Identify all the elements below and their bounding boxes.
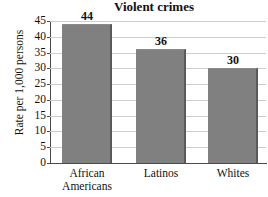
x-axis-category-label: AfricanAmericans xyxy=(50,167,124,193)
category-label-line: African xyxy=(50,167,124,180)
x-axis-category-label: Whites xyxy=(196,167,268,180)
x-axis-line xyxy=(50,163,267,164)
y-axis-tick-label: 0 xyxy=(24,157,46,169)
category-label-line: Latinos xyxy=(124,167,198,180)
bar-value-label: 30 xyxy=(208,54,258,66)
y-axis-tick-label: 45 xyxy=(24,15,46,27)
y-axis-tick-label: 40 xyxy=(24,31,46,43)
bar xyxy=(136,49,186,163)
plot-area: 443630 xyxy=(50,21,266,163)
category-label-line: Whites xyxy=(196,167,268,180)
bar-value-label: 44 xyxy=(62,10,112,22)
x-axis-category-label: Latinos xyxy=(124,167,198,180)
bar xyxy=(208,68,258,163)
y-axis-tick-label: 20 xyxy=(24,94,46,106)
y-axis-tick-label: 15 xyxy=(24,110,46,122)
violent-crimes-bar-chart: Violent crimes Rate per 1,000 persons 45… xyxy=(0,0,268,197)
y-axis-tick-label: 35 xyxy=(24,47,46,59)
y-axis-tick-label: 5 xyxy=(24,141,46,153)
y-axis-tick-label: 30 xyxy=(24,62,46,74)
category-label-line: Americans xyxy=(50,180,124,193)
bar xyxy=(62,24,112,163)
bar-value-label: 36 xyxy=(136,35,186,47)
y-axis-tick-label: 10 xyxy=(24,125,46,137)
y-axis-tick-label: 25 xyxy=(24,78,46,90)
